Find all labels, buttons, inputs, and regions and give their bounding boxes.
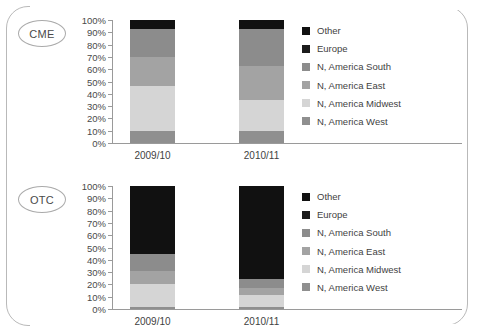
legend-item-label: N, America South xyxy=(317,61,391,72)
y-axis-tick-label: 30% xyxy=(70,101,106,112)
legend-item-label: N, America Midwest xyxy=(317,98,401,109)
y-axis-tick-label: 10% xyxy=(70,125,106,136)
y-axis-tick xyxy=(108,57,112,58)
y-axis-tick-label: 10% xyxy=(70,291,106,302)
y-axis-tick xyxy=(108,143,112,144)
y-axis-tick xyxy=(108,118,112,119)
legend-swatch-icon xyxy=(302,211,310,219)
x-axis-label: 2010/11 xyxy=(219,150,304,161)
y-axis-tick xyxy=(108,284,112,285)
y-axis-tick xyxy=(108,260,112,261)
y-axis-tick xyxy=(108,235,112,236)
bar-segment xyxy=(130,254,175,271)
stacked-bar xyxy=(130,186,175,309)
y-axis-tick-label: 0% xyxy=(70,304,106,315)
legend-item-label: Europe xyxy=(317,209,348,220)
legend-item: N, America West xyxy=(302,282,401,293)
bar-segment xyxy=(130,307,175,309)
y-axis-tick-label: 40% xyxy=(70,88,106,99)
legend-otc: OtherEuropeN, America SouthN, America Ea… xyxy=(302,191,401,300)
bar-segment xyxy=(130,57,175,87)
y-axis-tick xyxy=(108,211,112,212)
y-axis-line xyxy=(112,20,113,144)
y-axis-tick-label: 80% xyxy=(70,205,106,216)
bar-segment xyxy=(239,20,284,29)
legend-item: N, America South xyxy=(302,61,401,72)
legend-item-label: Europe xyxy=(317,43,348,54)
bar-segment xyxy=(239,66,284,100)
legend-item-label: Other xyxy=(317,25,341,36)
y-axis-tick-label: 80% xyxy=(70,39,106,50)
legend-item: Other xyxy=(302,191,401,202)
bar-segment xyxy=(130,86,175,130)
legend-item-label: N, America East xyxy=(317,246,385,257)
y-axis-tick-label: 30% xyxy=(70,267,106,278)
legend-swatch-icon xyxy=(302,247,310,255)
bar-segment xyxy=(239,29,284,66)
legend-swatch-icon xyxy=(302,45,310,53)
y-axis-tick xyxy=(108,106,112,107)
y-axis-tick xyxy=(108,297,112,298)
bar-segment xyxy=(239,131,284,143)
legend-item: N, America Midwest xyxy=(302,264,401,275)
legend-swatch-icon xyxy=(302,63,310,71)
bar-segment xyxy=(130,29,175,57)
stacked-bar xyxy=(239,186,284,309)
y-axis-tick xyxy=(108,223,112,224)
y-axis-tick xyxy=(108,94,112,95)
y-axis-tick xyxy=(108,131,112,132)
legend-item: Europe xyxy=(302,209,401,220)
y-axis-tick-label: 60% xyxy=(70,230,106,241)
y-axis-tick-label: 70% xyxy=(70,217,106,228)
y-axis-tick xyxy=(108,248,112,249)
legend-item-label: N, America South xyxy=(317,227,391,238)
legend-swatch-icon xyxy=(302,283,310,291)
bar-segment xyxy=(239,307,284,309)
legend-swatch-icon xyxy=(302,99,310,107)
legend-item: N, America South xyxy=(302,227,401,238)
legend-item: N, America East xyxy=(302,246,401,257)
plot-area-cme: 100%90%80%70%60%50%40%30%20%10%0%2009/10… xyxy=(0,0,481,166)
legend-item: N, America West xyxy=(302,116,401,127)
y-axis-tick-label: 60% xyxy=(70,64,106,75)
y-axis-tick xyxy=(108,272,112,273)
bar-segment xyxy=(239,295,284,306)
legend-item: N, America Midwest xyxy=(302,98,401,109)
legend-swatch-icon xyxy=(302,117,310,125)
x-axis-line xyxy=(112,143,462,144)
bar-segment xyxy=(130,271,175,285)
bar-segment xyxy=(130,284,175,306)
bar-segment xyxy=(130,186,175,254)
legend-swatch-icon xyxy=(302,265,310,273)
stacked-bar xyxy=(239,20,284,143)
y-axis-tick xyxy=(108,82,112,83)
legend-item: N, America East xyxy=(302,80,401,91)
y-axis-tick-label: 100% xyxy=(70,15,106,26)
legend-swatch-icon xyxy=(302,27,310,35)
legend-item-label: N, America East xyxy=(317,80,385,91)
y-axis-tick-label: 0% xyxy=(70,138,106,149)
bar-segment xyxy=(239,288,284,295)
legend-item: Europe xyxy=(302,43,401,54)
legend-item-label: Other xyxy=(317,191,341,202)
legend-item-label: N, America West xyxy=(317,116,388,127)
y-axis-tick-label: 90% xyxy=(70,27,106,38)
y-axis-tick xyxy=(108,309,112,310)
x-axis-label: 2009/10 xyxy=(110,316,195,327)
legend-swatch-icon xyxy=(302,193,310,201)
y-axis-tick xyxy=(108,20,112,21)
y-axis-tick-label: 20% xyxy=(70,113,106,124)
bar-segment xyxy=(239,279,284,288)
y-axis-tick xyxy=(108,186,112,187)
legend-item-label: N, America West xyxy=(317,282,388,293)
y-axis-tick-label: 20% xyxy=(70,279,106,290)
y-axis-line xyxy=(112,186,113,310)
y-axis-tick xyxy=(108,198,112,199)
y-axis-tick-label: 50% xyxy=(70,76,106,87)
legend-cme: OtherEuropeN, America SouthN, America Ea… xyxy=(302,25,401,134)
legend-item: Other xyxy=(302,25,401,36)
legend-swatch-icon xyxy=(302,81,310,89)
plot-area-otc: 100%90%80%70%60%50%40%30%20%10%0%2009/10… xyxy=(0,166,481,332)
y-axis-tick-label: 40% xyxy=(70,254,106,265)
legend-item-label: N, America Midwest xyxy=(317,264,401,275)
